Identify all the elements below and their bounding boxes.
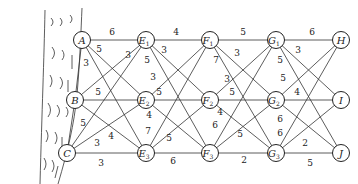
- edge-weight-label: 6: [109, 27, 115, 37]
- node-label: C: [63, 148, 71, 159]
- edge-weight-label: 6: [170, 156, 176, 166]
- node-J: J: [333, 145, 350, 162]
- edge-weight-label: 7: [213, 55, 219, 65]
- edge-weight-label: 5: [240, 27, 246, 37]
- node-label: J: [337, 148, 344, 159]
- edge-weight-label: 5: [80, 118, 86, 128]
- node-A: A: [74, 32, 91, 49]
- node-E1: E1: [137, 32, 154, 49]
- edge-weight-label: 3: [161, 45, 167, 55]
- edge-weight-label: 5: [144, 55, 150, 65]
- edge-weight-label: 6: [277, 114, 283, 124]
- node-G2: G2: [268, 92, 285, 109]
- edge-weight-label: 2: [302, 138, 308, 148]
- edge-weight-label: 5: [95, 87, 101, 97]
- node-H: H: [333, 32, 350, 49]
- edge-weight-label: 3: [98, 158, 104, 168]
- node-label: A: [77, 35, 85, 46]
- edge-weight-label: 4: [108, 131, 114, 141]
- edge-weight-label: 3: [150, 72, 156, 82]
- edge-weight-label: 4: [173, 27, 179, 37]
- edge-weight-label: 6: [212, 120, 218, 130]
- edge-weight-label: 3: [125, 50, 131, 60]
- edge-weight-label: 7: [145, 126, 151, 136]
- edge-weight-label: 5: [96, 44, 102, 54]
- graph-diagram: 356535433435354756537354652635546625 ABC…: [0, 0, 358, 184]
- edge-weight-label: 6: [309, 27, 315, 37]
- edge-weight-label: 3: [83, 58, 89, 68]
- edge-weight-label: 2: [241, 155, 247, 165]
- node-G1: G1: [268, 32, 285, 49]
- edge-A-B: [75, 40, 82, 100]
- edge-A-E2: [82, 40, 146, 100]
- edge-weight-label: 5: [307, 158, 313, 168]
- node-B: B: [67, 92, 84, 109]
- node-F2: F2: [202, 92, 219, 109]
- edge-weight-label: 5: [280, 73, 286, 83]
- edge-weight-label: 5: [237, 129, 243, 139]
- node-label: B: [70, 95, 78, 106]
- node-label: H: [336, 35, 346, 46]
- node-C: C: [59, 145, 76, 162]
- node-F3: F3: [202, 145, 219, 162]
- node-G3: G3: [268, 145, 285, 162]
- edge-weight-label: 4: [217, 107, 223, 117]
- edge-weight-label: 4: [294, 87, 300, 97]
- edge-weight-label: 6: [277, 128, 283, 138]
- edge-weight-label: 5: [229, 87, 235, 97]
- node-F1: F1: [202, 32, 219, 49]
- node-I: I: [333, 92, 350, 109]
- edge-weight-label: 4: [146, 110, 152, 120]
- node-E3: E3: [137, 145, 154, 162]
- edge-weight-label: 5: [166, 133, 172, 143]
- edge-weight-label: 3: [234, 48, 240, 58]
- edge-weight-label: 3: [224, 74, 230, 84]
- node-E2: E2: [137, 92, 154, 109]
- edge-weight-label: 3: [295, 45, 301, 55]
- edge-weight-label: 5: [277, 55, 283, 65]
- edge-weight-label: 3: [94, 138, 100, 148]
- edge-weight-label: 5: [156, 87, 162, 97]
